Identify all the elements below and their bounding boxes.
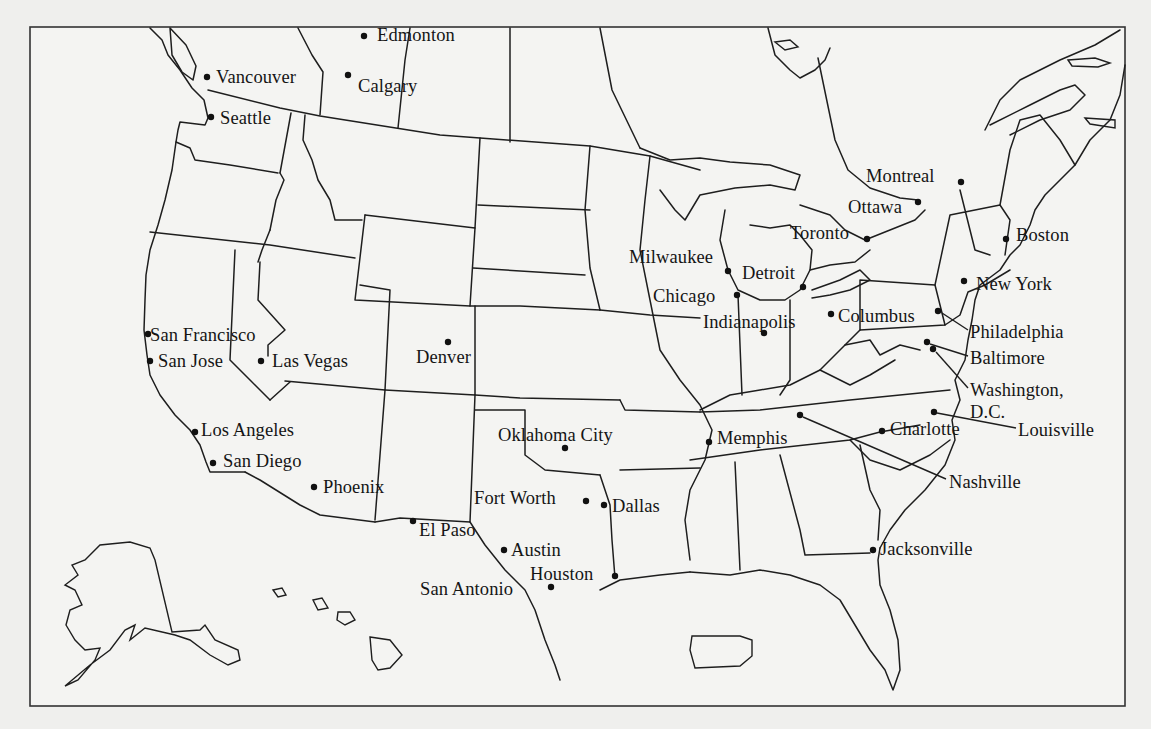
city-dot-austin	[501, 547, 507, 553]
city-label-houston: Houston	[530, 565, 593, 584]
city-label-louisville: Louisville	[1018, 421, 1094, 440]
city-label-detroit: Detroit	[742, 264, 795, 283]
city-dot-denver	[445, 339, 451, 345]
city-label-san-jose: San Jose	[158, 352, 223, 371]
city-label-vancouver: Vancouver	[216, 68, 296, 87]
city-dot-seattle	[208, 114, 214, 120]
city-label-montreal: Montreal	[866, 167, 935, 186]
city-label-el-paso: El Paso	[419, 521, 476, 540]
city-dot-louisville	[931, 409, 937, 415]
city-dot-los-angeles	[192, 429, 198, 435]
city-dot-toronto	[864, 236, 870, 242]
city-label-columbus: Columbus	[838, 307, 915, 326]
city-label-indianapolis: Indianapolis	[703, 313, 796, 332]
city-dot-philadelphia	[935, 308, 941, 314]
city-label-philadelphia: Philadelphia	[970, 323, 1064, 342]
city-dot-ottawa	[915, 199, 921, 205]
city-label-edmonton: Edmonton	[377, 26, 455, 45]
city-dot-nashville	[797, 412, 803, 418]
city-label-new-york: New York	[976, 275, 1052, 294]
city-label-washington-d-c-line2: D.C.	[970, 403, 1005, 422]
city-label-denver: Denver	[416, 348, 471, 367]
city-dot-las-vegas	[258, 358, 264, 364]
city-label-seattle: Seattle	[220, 109, 271, 128]
city-label-oklahoma-city: Oklahoma City	[498, 426, 613, 445]
city-label-fort-worth: Fort Worth	[474, 489, 556, 508]
city-dot-houston	[612, 573, 618, 579]
city-label-milwaukee: Milwaukee	[629, 248, 713, 267]
city-label-charlotte: Charlotte	[890, 420, 960, 439]
city-dot-vancouver	[204, 74, 210, 80]
city-label-san-francisco: San Francisco	[150, 326, 256, 345]
city-dot-edmonton	[361, 33, 367, 39]
city-dot-fort-worth	[583, 498, 589, 504]
city-dot-memphis	[706, 439, 712, 445]
map-stage: EdmontonVancouverCalgarySeattleMontrealO…	[0, 0, 1151, 729]
city-dot-boston	[1003, 236, 1009, 242]
city-label-toronto: Toronto	[790, 224, 849, 243]
city-label-baltimore: Baltimore	[970, 349, 1045, 368]
city-dot-columbus	[828, 311, 834, 317]
city-label-austin: Austin	[511, 541, 561, 560]
city-dot-dallas	[601, 502, 607, 508]
city-dot-san-diego	[210, 460, 216, 466]
city-dot-jacksonville	[870, 547, 876, 553]
city-dot-charlotte	[879, 428, 885, 434]
city-label-los-angeles: Los Angeles	[201, 421, 294, 440]
city-dot-chicago	[734, 292, 740, 298]
city-dot-phoenix	[311, 484, 317, 490]
city-dot-oklahoma-city	[562, 445, 568, 451]
city-label-san-diego: San Diego	[223, 452, 302, 471]
city-label-chicago: Chicago	[653, 287, 715, 306]
city-label-washington-d-c: Washington,	[970, 381, 1064, 400]
city-dot-detroit	[800, 284, 806, 290]
city-dot-washington-d-c	[930, 346, 936, 352]
city-dot-san-antonio	[548, 584, 554, 590]
city-label-memphis: Memphis	[717, 429, 788, 448]
city-label-phoenix: Phoenix	[323, 478, 384, 497]
city-dot-baltimore	[924, 339, 930, 345]
city-label-calgary: Calgary	[358, 77, 417, 96]
city-label-nashville: Nashville	[949, 473, 1021, 492]
city-label-jacksonville: Jacksonville	[880, 540, 973, 559]
city-dot-montreal	[958, 179, 964, 185]
city-label-boston: Boston	[1016, 226, 1069, 245]
city-label-ottawa: Ottawa	[848, 198, 902, 217]
city-label-dallas: Dallas	[612, 497, 660, 516]
city-dot-el-paso	[410, 518, 416, 524]
city-label-san-antonio: San Antonio	[420, 580, 513, 599]
city-dot-san-jose	[147, 358, 153, 364]
city-label-las-vegas: Las Vegas	[272, 352, 348, 371]
city-dot-new-york	[961, 278, 967, 284]
city-dot-milwaukee	[725, 268, 731, 274]
city-dot-calgary	[345, 72, 351, 78]
